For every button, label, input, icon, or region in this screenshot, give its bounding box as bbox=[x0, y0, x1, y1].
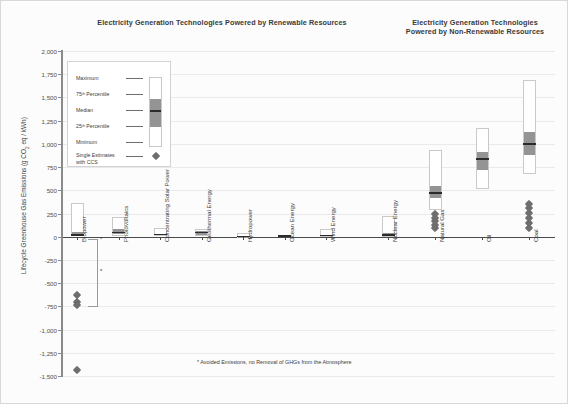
x-axis-tick-mark bbox=[529, 237, 530, 240]
chart-figure: Electricity Generation Technologies Powe… bbox=[0, 0, 568, 404]
y-axis-tick-mark bbox=[58, 167, 61, 168]
x-axis-tick-mark bbox=[160, 237, 161, 240]
x-axis-category-label: Oil bbox=[485, 234, 492, 241]
y-axis-tick-label: 0 bbox=[9, 233, 57, 240]
y-axis-tick-mark bbox=[58, 330, 61, 331]
x-axis-category-label: Coal bbox=[532, 229, 539, 242]
legend-dash-median bbox=[126, 110, 143, 111]
legend-ccs-diamond-icon bbox=[151, 152, 159, 160]
legend-label-p75: 75ᵗʰ Percentile bbox=[76, 91, 109, 98]
x-axis-category-label: Nuclear Energy bbox=[391, 200, 398, 242]
biopower-asterisk-marker-top: * bbox=[100, 236, 102, 242]
y-axis-tick-mark bbox=[58, 214, 61, 215]
y-axis-tick-label: 1,500 bbox=[9, 94, 57, 101]
y-axis-tick-label: 1,000 bbox=[9, 140, 57, 147]
chart-title-nonrenewable-line2: Powered by Non-Renewable Resources bbox=[386, 27, 564, 36]
x-axis-category-label: Photovoltaics bbox=[122, 205, 129, 241]
biopower-avoided-emissions-bracket bbox=[88, 239, 98, 308]
x-axis-tick-mark bbox=[435, 237, 436, 240]
x-axis-category-label: Hydropower bbox=[246, 209, 253, 242]
y-axis-tick-label: 500 bbox=[9, 187, 57, 194]
y-axis-tick-label: -250 bbox=[9, 256, 57, 263]
y-axis-tick-label: -1,500 bbox=[9, 373, 57, 380]
x-axis-tick-mark bbox=[77, 237, 78, 240]
x-axis-category-label: Concentrating Solar Power bbox=[163, 169, 170, 242]
x-axis-tick-mark bbox=[482, 237, 483, 240]
x-axis-tick-mark bbox=[388, 237, 389, 240]
legend-dash-minimum bbox=[126, 142, 143, 143]
x-axis-category-label: Natural Gas bbox=[438, 209, 445, 242]
y-axis-tick-mark bbox=[58, 51, 61, 52]
x-axis-category-label: Geothermal Energy bbox=[205, 189, 212, 242]
y-axis-tick-label: -500 bbox=[9, 280, 57, 287]
chart-title-renewable: Electricity Generation Technologies Powe… bbox=[63, 18, 381, 27]
y-axis-tick-label: -1,250 bbox=[9, 349, 57, 356]
y-axis-tick-mark bbox=[58, 237, 61, 238]
boxplot-group bbox=[523, 51, 536, 376]
x-axis-tick-mark bbox=[202, 237, 203, 240]
x-axis-category-label: Biopower bbox=[80, 216, 87, 241]
legend-median-line bbox=[150, 110, 161, 112]
chart-legend: Maximum 75ᵗʰ Percentile Median 25ᵗʰ Perc… bbox=[67, 61, 171, 167]
y-axis-tick-mark bbox=[58, 97, 61, 98]
legend-iqr-band bbox=[150, 99, 161, 127]
boxplot-median-line bbox=[429, 192, 442, 194]
x-axis-tick-mark bbox=[243, 237, 244, 240]
legend-dash-ccs bbox=[126, 156, 143, 157]
x-axis-category-label: Ocean Energy bbox=[288, 203, 295, 242]
legend-label-p25: 25ᵗʰ Percentile bbox=[76, 123, 109, 130]
legend-label-ccs-line2: with CCS bbox=[76, 159, 115, 166]
y-axis-tick-mark bbox=[58, 353, 61, 354]
legend-dash-p75 bbox=[126, 94, 143, 95]
x-axis-tick-mark bbox=[285, 237, 286, 240]
y-axis-tick-label: 250 bbox=[9, 210, 57, 217]
legend-label-maximum: Maximum bbox=[76, 75, 98, 82]
x-axis-tick-mark bbox=[119, 237, 120, 240]
x-axis-category-label: Wind Energy bbox=[329, 207, 336, 242]
biopower-asterisk-marker: * bbox=[100, 268, 102, 274]
y-axis-tick-mark bbox=[58, 74, 61, 75]
legend-label-minimum: Minimum bbox=[76, 139, 97, 146]
boxplot-iqr-band bbox=[476, 152, 489, 169]
y-axis-tick-label: 1,250 bbox=[9, 117, 57, 124]
y-axis-tick-mark bbox=[58, 121, 61, 122]
x-axis-tick-mark bbox=[326, 237, 327, 240]
legend-label-median: Median bbox=[76, 107, 93, 114]
y-axis-tick-label: -1,000 bbox=[9, 326, 57, 333]
boxplot-range-box bbox=[523, 80, 536, 174]
boxplot-group bbox=[476, 51, 489, 376]
boxplot-median-line bbox=[476, 158, 489, 160]
legend-dash-p25 bbox=[126, 126, 143, 127]
y-axis-tick-mark bbox=[58, 190, 61, 191]
legend-box-sample bbox=[149, 77, 162, 147]
boxplot-median-line bbox=[523, 143, 536, 145]
boxplot-range-box bbox=[429, 150, 442, 209]
y-axis-tick-label: 750 bbox=[9, 164, 57, 171]
chart-title-nonrenewable-line1: Electricity Generation Technologies bbox=[386, 18, 564, 27]
y-axis-tick-mark bbox=[58, 376, 61, 377]
y-axis-tick-mark bbox=[58, 260, 61, 261]
y-axis-tick-label: -750 bbox=[9, 303, 57, 310]
y-axis-tick-label: 1,750 bbox=[9, 71, 57, 78]
y-axis-tick-label: 2,000 bbox=[9, 48, 57, 55]
legend-label-ccs-line1: Single Estimates bbox=[76, 152, 115, 159]
y-axis-tick-mark bbox=[58, 144, 61, 145]
chart-title-nonrenewable: Electricity Generation Technologies Powe… bbox=[386, 18, 564, 36]
chart-footnote: * Avoided Emissions, no Removal of GHGs … bbox=[197, 359, 352, 365]
y-axis-tick-mark bbox=[58, 283, 61, 284]
legend-dash-maximum bbox=[126, 78, 143, 79]
y-axis-tick-mark bbox=[58, 306, 61, 307]
legend-label-ccs: Single Estimates with CCS bbox=[76, 152, 115, 165]
ccs-estimate-diamond bbox=[73, 365, 81, 373]
gridline bbox=[63, 376, 555, 377]
